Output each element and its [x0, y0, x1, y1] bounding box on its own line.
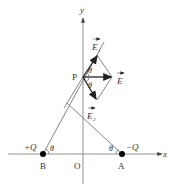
x-axis-label: x	[162, 149, 167, 159]
parallelogram-bottom	[97, 77, 112, 100]
diagram-canvas: y x O P B A +Q −Q θ θ θ θ E 1 E E 2	[0, 0, 170, 189]
svg-text:1: 1	[98, 48, 101, 53]
point-B-label: B	[40, 161, 46, 171]
theta-P-lower: θ	[88, 81, 92, 90]
charge-B-label: +Q	[24, 142, 37, 152]
theta-P-upper: θ	[88, 66, 92, 75]
theta-A: θ	[109, 144, 113, 153]
svg-text:2: 2	[93, 117, 96, 122]
point-P-label: P	[72, 72, 77, 82]
y-axis-label: y	[79, 5, 84, 15]
theta-B: θ	[50, 144, 54, 153]
svg-text:E: E	[86, 111, 93, 121]
parallelogram-top	[97, 55, 112, 77]
charge-A-label: −Q	[126, 142, 139, 152]
svg-text:E: E	[91, 42, 98, 52]
charge-B	[40, 151, 46, 157]
label-E: E	[116, 73, 124, 86]
svg-text:E: E	[116, 76, 123, 86]
electric-field-diagram: y x O P B A +Q −Q θ θ θ θ E 1 E E 2	[0, 0, 170, 189]
angle-arc-A	[116, 149, 119, 154]
point-A-label: A	[118, 161, 125, 171]
angle-arc-B	[46, 149, 49, 154]
line-A-P	[67, 103, 122, 154]
origin-label: O	[74, 161, 81, 171]
charge-A	[119, 151, 125, 157]
label-E1: E 1	[91, 39, 101, 53]
label-E2: E 2	[86, 108, 96, 122]
